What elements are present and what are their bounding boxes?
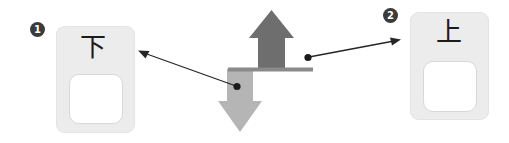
leader-arrowhead-right xyxy=(390,38,401,46)
horizontal-divider-bar xyxy=(228,68,313,72)
leader-line-left xyxy=(144,53,236,86)
leader-dot-left xyxy=(233,83,240,90)
leader-dot-right xyxy=(304,54,311,61)
diagram-canvas: 下 上 1 2 xyxy=(0,0,509,143)
arrow-diagram xyxy=(0,0,509,143)
up-arrow xyxy=(249,10,294,69)
down-arrow xyxy=(218,69,262,132)
leader-line-right xyxy=(309,41,394,57)
